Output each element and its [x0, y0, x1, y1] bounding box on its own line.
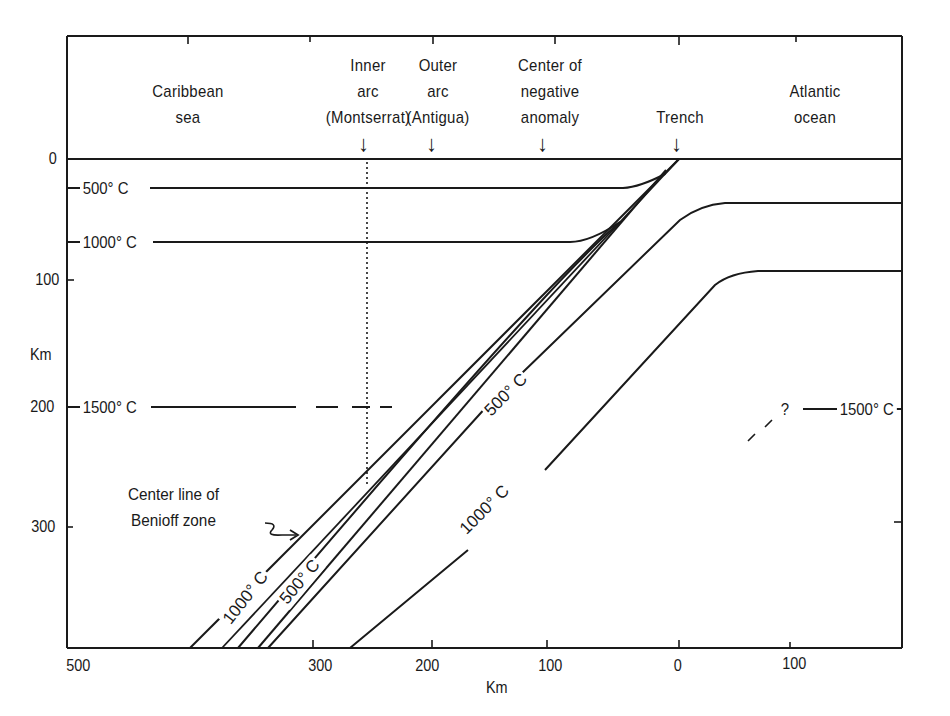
isotherm-label-1000-left: 1000° C	[80, 233, 140, 253]
y-tick-200: 200	[30, 397, 54, 417]
isotherm-label-1500-right: 1500° C	[837, 400, 897, 420]
x-tick-100-right: 100	[782, 654, 806, 674]
bottom-ticks	[313, 640, 790, 648]
atlantic-ocean-label: Atlanticocean	[771, 82, 859, 128]
y-axis-label: Km	[30, 345, 52, 365]
uncertainty-question-mark: ?	[778, 400, 792, 420]
right-ticks	[894, 409, 902, 522]
trench-arrow-icon: ↓	[671, 133, 682, 155]
isotherm-500-left	[67, 159, 679, 188]
benioff-zone-callout: Center line of Benioff zone	[128, 482, 219, 534]
top-ticks	[188, 36, 796, 45]
y-tick-300: 300	[31, 517, 55, 537]
x-tick-500: 500	[66, 656, 90, 676]
benioff-callout-arrow	[265, 523, 296, 535]
x-axis-label: Km	[486, 678, 508, 698]
inner-arc-arrow-icon: ↓	[358, 133, 369, 155]
isotherm-label-1500-left: 1500° C	[80, 398, 140, 418]
isotherm-1500-right-dashed	[748, 420, 772, 441]
slab-isotherm-1000-oceanic	[350, 271, 902, 648]
x-tick-0: 0	[674, 656, 682, 676]
y-tick-0: 0	[49, 149, 57, 169]
outer-arc-label: Outer arc (Antigua)	[403, 56, 473, 128]
negative-anomaly-arrow-icon: ↓	[537, 133, 548, 155]
trench-label: Trench	[645, 108, 715, 128]
x-tick-200: 200	[415, 656, 439, 676]
x-tick-100-left: 100	[538, 656, 562, 676]
caribbean-sea-label: Caribbeansea	[126, 82, 249, 128]
x-tick-300: 300	[308, 656, 332, 676]
isotherm-1000-left	[67, 222, 620, 242]
y-tick-100: 100	[35, 270, 59, 290]
negative-anomaly-label: Center of negative anomaly	[506, 56, 594, 128]
inner-arc-label: Inner arc (Montserrat)	[324, 56, 412, 128]
left-ticks	[67, 280, 74, 527]
outer-arc-arrow-icon: ↓	[426, 133, 437, 155]
isotherm-label-500-left: 500° C	[80, 179, 131, 199]
